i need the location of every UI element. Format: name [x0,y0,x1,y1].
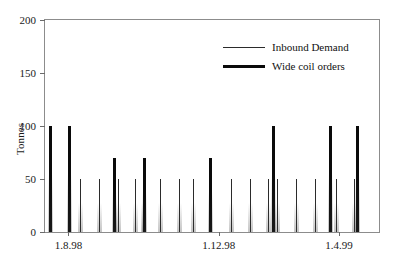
data-spike [277,179,278,232]
data-spike [193,179,194,232]
y-tick-label: 100 [20,120,37,132]
data-spike [231,179,232,232]
data-spike [315,179,316,232]
legend-label: Inbound Demand [272,41,349,53]
legend-line-icon [223,65,265,68]
data-spike [209,158,212,232]
y-tick [40,232,45,233]
data-spike [296,179,297,232]
data-spike [99,179,100,232]
y-tick-label: 50 [25,173,36,185]
y-tick-label: 150 [20,67,37,79]
legend-line-icon [223,47,265,48]
data-spike [179,179,180,232]
y-tick-label: 0 [31,226,37,238]
x-tick-label: 1.12.98 [202,239,235,251]
data-spike [272,126,275,232]
data-spike [113,158,116,232]
data-spike [329,126,332,232]
x-tick [339,232,340,236]
legend-item: Wide coil orders [223,60,349,72]
data-spike [135,179,136,232]
data-spike [49,126,52,232]
x-tick-label: 1.8.98 [55,239,83,251]
legend-item: Inbound Demand [223,41,349,53]
data-spike [354,179,355,232]
chart-container: Tonnes 050100150200 1.8.981.12.981.4.99 … [0,0,399,278]
legend-label: Wide coil orders [272,60,345,72]
y-tick-label: 200 [20,14,37,26]
x-tick [219,232,220,236]
data-spike [143,158,146,232]
data-spike [160,179,161,232]
y-axis-title: Tonnes [14,0,28,278]
data-spike [80,179,81,232]
data-spike [118,179,119,232]
x-tick-label: 1.4.99 [325,239,353,251]
chart-legend: Inbound DemandWide coil orders [223,41,349,72]
data-spike [250,179,251,232]
data-spike [356,126,359,232]
x-tick [68,232,69,236]
data-spike [268,179,269,232]
data-spike [336,179,337,232]
data-spike [68,126,71,232]
